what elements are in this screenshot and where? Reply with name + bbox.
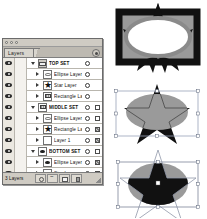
appearance-swatch[interactable]: [92, 105, 102, 110]
layer-row[interactable]: Rectangle La...: [3, 91, 102, 102]
layer-row[interactable]: Ellipse Layer: [3, 69, 102, 80]
titlebar-dot-2: [10, 41, 13, 44]
appearance-swatch[interactable]: [92, 61, 102, 66]
chevron-down-icon[interactable]: [27, 62, 38, 65]
layer-name-label: BOTTOM SET: [49, 146, 82, 157]
layer-row[interactable]: Star Layer: [3, 80, 102, 91]
layer-thumbnail[interactable]: [43, 92, 52, 101]
layer-row[interactable]: Ellipse Layer: [3, 157, 102, 168]
panel-menu-icon[interactable]: [92, 49, 100, 57]
layer-thumbnail[interactable]: [43, 158, 52, 167]
eye-icon[interactable]: [3, 69, 15, 80]
chevron-down-icon[interactable]: [27, 150, 38, 153]
lock-column[interactable]: [15, 58, 27, 69]
eye-icon[interactable]: [3, 157, 15, 168]
lock-column[interactable]: [15, 69, 27, 80]
eye-icon[interactable]: [3, 146, 15, 157]
layer-thumbnail[interactable]: [43, 125, 52, 134]
appearance-swatch[interactable]: [92, 116, 102, 121]
panel-titlebar[interactable]: [3, 39, 102, 47]
eye-icon[interactable]: [3, 135, 15, 146]
lock-column[interactable]: [15, 157, 27, 168]
appearance-swatch[interactable]: [92, 149, 102, 154]
target-ring-icon[interactable]: [82, 61, 92, 66]
lock-column[interactable]: [15, 135, 27, 146]
layer-thumbnail[interactable]: [43, 114, 52, 123]
disclosure-triangle: [31, 62, 35, 65]
layer-name-label: Rectangle La...: [54, 91, 82, 102]
eye-icon[interactable]: [3, 91, 15, 102]
target-ring-glyph: [85, 94, 90, 99]
chevron-right-icon[interactable]: [32, 127, 43, 131]
eye-icon[interactable]: [3, 58, 15, 69]
chevron-right-icon[interactable]: [32, 138, 43, 142]
add-style-button[interactable]: [47, 174, 58, 183]
lock-column[interactable]: [15, 124, 27, 135]
eye-icon[interactable]: [3, 113, 15, 124]
appearance-swatch[interactable]: [92, 83, 102, 88]
target-ring-icon[interactable]: [82, 94, 92, 99]
target-ring-icon[interactable]: [82, 116, 92, 121]
appearance-swatch[interactable]: [92, 160, 102, 165]
lock-column[interactable]: [15, 113, 27, 124]
eye-icon[interactable]: [3, 124, 15, 135]
eye-glyph: [5, 148, 12, 154]
delete-layer-button[interactable]: [71, 174, 82, 183]
add-mask-button[interactable]: [35, 174, 46, 183]
chevron-right-icon[interactable]: [32, 160, 43, 164]
layer-row[interactable]: MIDDLE SET: [3, 102, 102, 113]
lock-column[interactable]: [15, 91, 27, 102]
layer-name-label: Layer 1: [54, 135, 82, 146]
target-ring-icon[interactable]: [82, 138, 92, 143]
disclosure-triangle: [31, 150, 35, 153]
layer-name-label: Ellipse Layer: [54, 157, 82, 168]
layer-row[interactable]: BOTTOM SET: [3, 146, 102, 157]
gray-ellipse: [126, 94, 188, 130]
layer-thumbnail[interactable]: [38, 147, 47, 156]
new-layer-button[interactable]: [59, 174, 70, 183]
target-ring-icon[interactable]: [82, 160, 92, 165]
target-ring-glyph: [85, 61, 90, 66]
appearance-swatch-glyph: [95, 160, 100, 165]
target-ring-icon[interactable]: [82, 149, 92, 154]
target-ring-glyph: [85, 138, 90, 143]
layer-name-label: Ellipse Layer: [54, 113, 82, 124]
layer-row[interactable]: Rectangle La...: [3, 124, 102, 135]
panel-resize-grip[interactable]: [95, 177, 101, 183]
target-ring-icon[interactable]: [82, 72, 92, 77]
layers-panel[interactable]: Layers TOP SETEllipse LayerStar LayerRec…: [2, 38, 103, 185]
eye-icon[interactable]: [3, 80, 15, 91]
eye-glyph: [5, 82, 12, 88]
appearance-swatch[interactable]: [92, 72, 102, 77]
chevron-right-icon[interactable]: [32, 116, 43, 120]
appearance-swatch-glyph: [95, 116, 100, 121]
appearance-swatch[interactable]: [92, 127, 102, 132]
layer-row[interactable]: Ellipse Layer: [3, 113, 102, 124]
chevron-right-icon[interactable]: [32, 83, 43, 87]
eye-icon[interactable]: [3, 102, 15, 113]
layer-thumbnail[interactable]: [38, 59, 47, 68]
target-ring-icon[interactable]: [82, 83, 92, 88]
target-ring-glyph: [85, 105, 90, 110]
chevron-right-icon[interactable]: [32, 94, 43, 98]
appearance-swatch[interactable]: [92, 138, 102, 143]
artwork-top-set: [113, 3, 203, 75]
layer-list[interactable]: TOP SETEllipse LayerStar LayerRectangle …: [3, 57, 102, 172]
layer-thumbnail[interactable]: [43, 81, 52, 90]
appearance-swatch[interactable]: [92, 94, 102, 99]
layer-row[interactable]: Layer 1: [3, 135, 102, 146]
layer-thumbnail[interactable]: [43, 70, 52, 79]
lock-column[interactable]: [15, 80, 27, 91]
disclosure-triangle: [36, 72, 39, 76]
chevron-right-icon[interactable]: [32, 72, 43, 76]
layer-row[interactable]: TOP SET: [3, 58, 102, 69]
lock-column[interactable]: [15, 146, 27, 157]
target-ring-icon[interactable]: [82, 127, 92, 132]
layer-thumbnail[interactable]: [38, 103, 47, 112]
chevron-down-icon[interactable]: [27, 106, 38, 109]
disclosure-triangle: [36, 116, 39, 120]
lock-column[interactable]: [15, 102, 27, 113]
layer-name-label: MIDDLE SET: [49, 102, 82, 113]
layer-thumbnail[interactable]: [43, 136, 52, 145]
target-ring-icon[interactable]: [82, 105, 92, 110]
